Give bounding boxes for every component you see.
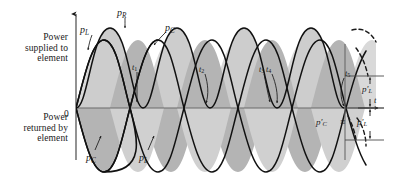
power-returned-line-2: returned by <box>2 123 68 134</box>
power-supplied-line-2: supplied to <box>2 43 68 54</box>
power-supplied-line-1: Power <box>2 32 68 43</box>
measurement-pL-prime-sub: L <box>368 87 372 94</box>
time-mark-t2: t2 <box>199 65 204 75</box>
time-mark-t4-sub: 4 <box>268 68 271 74</box>
curve-label-pC-top-sub: C <box>170 27 175 35</box>
curve-label-pC-bottom-sub: C <box>91 157 96 165</box>
time-mark-t3: t3 <box>259 65 264 75</box>
curve-label-pL-top-sub: L <box>85 29 89 37</box>
curve-label-pC-bottom: pC <box>86 152 96 165</box>
curve-label-pL-bottom: pL <box>139 152 148 165</box>
curve-label-pR-top-sub: R <box>122 12 126 20</box>
time-mark-t5-sub: 5 <box>347 72 350 78</box>
time-mark-t1-sub: 1 <box>134 66 137 72</box>
power-supplied-label: Power supplied to element <box>2 32 68 64</box>
measurement-pL-prime-right-sub: L <box>363 120 367 127</box>
leader-pL-top <box>88 35 92 50</box>
time-mark-t1: t1 <box>132 63 137 73</box>
figure-canvas <box>0 0 402 179</box>
power-returned-line-3: element <box>2 133 68 144</box>
equivalence-symbol: ≡ <box>340 117 345 127</box>
measurement-pC-prime-sub: C <box>322 120 326 127</box>
power-returned-label: Power returned by element <box>2 112 68 144</box>
time-mark-t5: t5 <box>345 69 350 79</box>
curve-label-pL-top: pL <box>80 24 89 37</box>
measurement-pC-prime: p′C <box>316 117 327 128</box>
curve-label-pL-bottom-sub: L <box>144 157 148 165</box>
power-supplied-line-3: element <box>2 53 68 64</box>
origin-label: 0 <box>64 109 69 120</box>
power-vs-time-figure: Power supplied to element Power returned… <box>0 0 402 179</box>
measurement-pL-prime-right: p′L <box>357 117 367 128</box>
time-mark-t4: t4 <box>266 65 271 75</box>
power-returned-line-1: Power <box>2 112 68 123</box>
measurement-pL-prime: p′L <box>362 84 372 95</box>
t-axis-label: t <box>374 96 376 106</box>
time-mark-t3-sub: 3 <box>261 68 264 74</box>
time-mark-t2-sub: 2 <box>201 68 204 74</box>
curve-label-pR-top: pR <box>117 7 126 20</box>
curve-label-pC-top: pC <box>165 22 175 35</box>
